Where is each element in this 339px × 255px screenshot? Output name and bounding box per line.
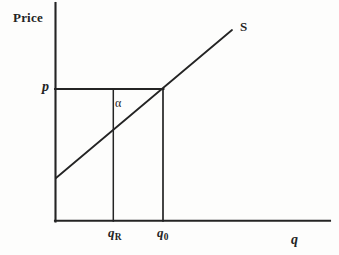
angle-alpha-label: α — [115, 97, 121, 109]
supply-curve-label: S — [240, 20, 247, 33]
y-axis-label: Price — [13, 11, 43, 24]
quantity-label-q0-base: q — [157, 225, 164, 240]
quantity-label-q0: q0 — [157, 226, 168, 242]
supply-curve-figure: Price p S α qR q0 q — [0, 0, 339, 255]
diagram-canvas — [0, 0, 339, 255]
quantity-label-q0-subscript: 0 — [164, 232, 169, 242]
x-axis-label: q — [291, 233, 298, 247]
price-level-label: p — [42, 80, 49, 94]
quantity-label-qr-base: q — [108, 225, 115, 240]
quantity-label-qr: qR — [108, 226, 122, 242]
supply-curve-line — [56, 30, 232, 178]
quantity-label-qr-subscript: R — [115, 232, 122, 242]
